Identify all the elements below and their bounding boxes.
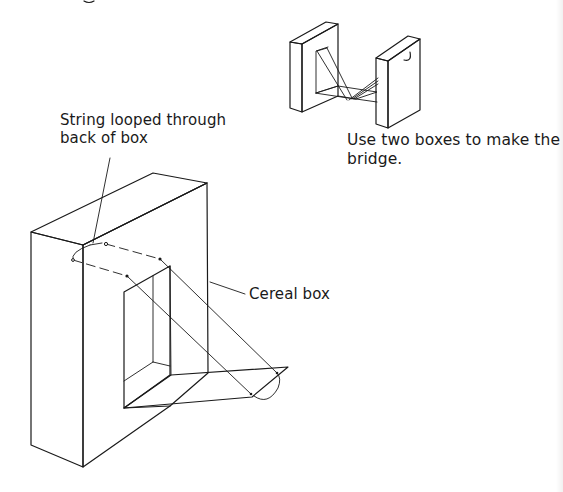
box-top-face — [31, 173, 207, 245]
two-box-bridge-illustration — [290, 22, 420, 128]
box-callout-leader — [210, 282, 245, 294]
bridge-diagram — [0, 0, 563, 492]
bridge-strings — [317, 48, 378, 100]
left-box — [290, 22, 338, 112]
string-loop — [73, 245, 90, 260]
string-callout-line-1: String looped through — [60, 111, 226, 129]
box-front-face — [83, 183, 208, 467]
box-window-opening — [124, 266, 171, 408]
box-side-face — [31, 232, 83, 467]
bridge-caption-line-2: bridge. — [347, 150, 560, 169]
bridge-caption-line-1: Use two boxes to make the — [347, 131, 560, 150]
bridge-caption: Use two boxes to make the bridge. — [347, 131, 560, 169]
hidden-string-path — [72, 242, 160, 276]
cereal-box-illustration — [31, 158, 288, 467]
drawbridge-flap — [124, 367, 288, 408]
string-loop-icon — [404, 52, 410, 60]
top-fragment — [84, 1, 94, 3]
right-box — [376, 36, 420, 128]
string-callout-line-2: back of box — [60, 129, 226, 147]
cereal-box-callout-label: Cereal box — [249, 285, 330, 303]
string-callout-label: String looped through back of box — [60, 111, 226, 147]
